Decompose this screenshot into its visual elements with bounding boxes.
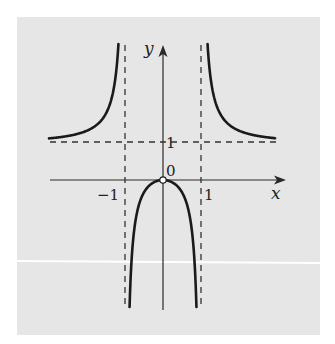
y-axis-label: y: [143, 38, 154, 58]
tick-label-neg1: −1: [97, 186, 119, 204]
tick-label-pos1: 1: [204, 186, 214, 204]
tick-label-y1: 1: [166, 134, 176, 152]
x-axis-label: x: [271, 183, 281, 203]
curve-right-branch: [208, 44, 276, 138]
curve-left-branch: [49, 44, 118, 138]
curves: [49, 44, 275, 307]
function-graph: y x 0 −1 1 1: [0, 0, 335, 344]
origin-label: 0: [166, 162, 176, 180]
